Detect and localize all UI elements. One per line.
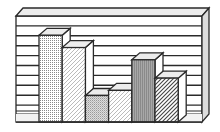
back-panel-side: [202, 8, 209, 122]
bar: [155, 71, 186, 122]
bar-front: [62, 48, 85, 122]
bar-side: [178, 71, 186, 122]
back-panel-top: [16, 8, 209, 16]
3d-bar-chart: [0, 0, 220, 132]
bar-front: [109, 90, 132, 122]
bar-front: [85, 95, 108, 122]
bar-front: [132, 60, 155, 122]
bar-front: [155, 78, 178, 122]
bar-front: [39, 35, 62, 122]
